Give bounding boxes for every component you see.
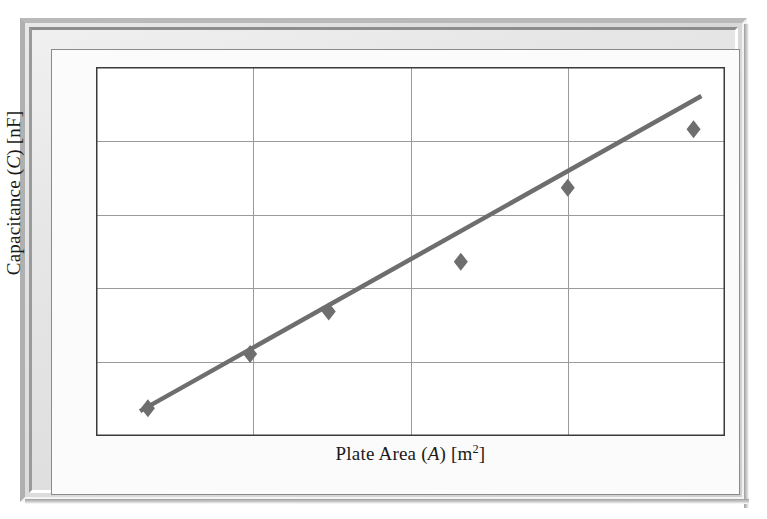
plot-area [96, 67, 725, 436]
figure-screenshot: Capacitance (C) [nF] Plate Area (A) [m2]… [0, 0, 767, 519]
y-axis-title-prefix: Capacitance ( [3, 169, 24, 276]
x-axis-title: Plate Area (A) [m2] [96, 443, 725, 465]
x-axis-title-mid: ) [m [440, 443, 473, 464]
figure-frame-shadow-right [744, 24, 749, 508]
figure-frame-shadow-bottom [25, 499, 749, 504]
y-axis-title-suffix: ) [nF] [3, 111, 24, 156]
x-axis-title-prefix: Plate Area ( [336, 443, 428, 464]
x-axis-symbol: A [428, 443, 440, 464]
x-axis-title-suffix: ] [479, 443, 486, 464]
y-axis-symbol: C [3, 156, 24, 169]
plot-svg [96, 67, 725, 436]
y-axis-title: Capacitance (C) [nF] [3, 0, 25, 413]
